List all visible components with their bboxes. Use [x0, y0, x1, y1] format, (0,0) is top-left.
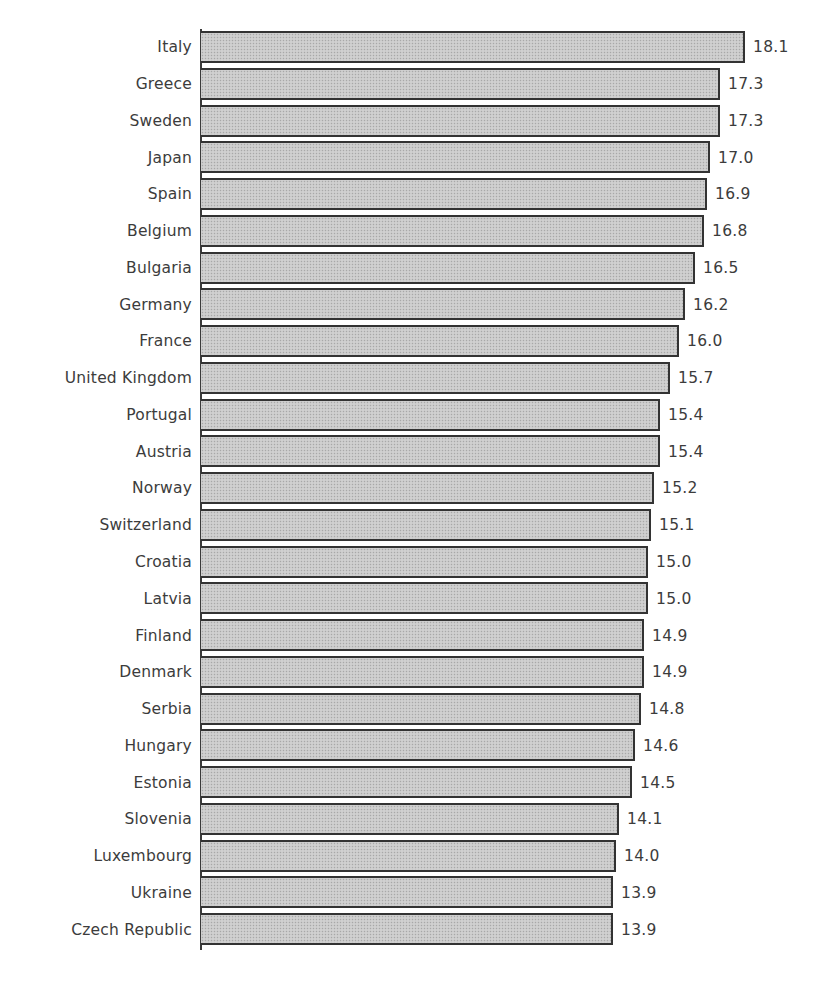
bar-row: Finland14.9 [0, 617, 826, 654]
bar-row: Portugal15.4 [0, 397, 826, 434]
bar-row: Japan17.0 [0, 139, 826, 176]
category-label: Germany [119, 286, 192, 323]
category-label: Switzerland [99, 507, 192, 544]
category-label: Hungary [124, 727, 192, 764]
bar [201, 31, 745, 63]
value-label: 15.4 [668, 433, 704, 470]
value-label: 14.0 [624, 838, 660, 875]
bar [201, 215, 704, 247]
category-label: Italy [157, 29, 192, 66]
category-label: Denmark [119, 654, 192, 691]
value-label: 15.0 [656, 580, 692, 617]
value-label: 14.5 [640, 764, 676, 801]
value-label: 13.9 [621, 874, 657, 911]
category-label: Croatia [135, 544, 192, 581]
bar-row: Serbia14.8 [0, 691, 826, 728]
bar [201, 178, 707, 210]
category-label: Serbia [141, 691, 192, 728]
category-label: Sweden [130, 103, 192, 140]
bar [201, 362, 670, 394]
bar-row: Sweden17.3 [0, 103, 826, 140]
category-label: Austria [136, 433, 192, 470]
category-label: Greece [136, 66, 192, 103]
value-label: 14.9 [652, 617, 688, 654]
bar-row: Croatia15.0 [0, 544, 826, 581]
value-label: 15.4 [668, 397, 704, 434]
bar-row: Italy18.1 [0, 29, 826, 66]
value-label: 15.2 [662, 470, 698, 507]
value-label: 16.0 [687, 323, 723, 360]
value-label: 18.1 [753, 29, 789, 66]
bar [201, 766, 632, 798]
category-label: Bulgaria [126, 250, 192, 287]
value-label: 16.5 [703, 250, 739, 287]
bar-row: Estonia14.5 [0, 764, 826, 801]
category-label: Norway [132, 470, 192, 507]
bar [201, 288, 685, 320]
bar-row: Ukraine13.9 [0, 874, 826, 911]
bar [201, 803, 619, 835]
bar [201, 105, 720, 137]
value-label: 14.8 [649, 691, 685, 728]
category-label: Luxembourg [93, 838, 192, 875]
value-label: 16.9 [715, 176, 751, 213]
value-label: 16.2 [693, 286, 729, 323]
bar [201, 509, 651, 541]
value-label: 15.7 [678, 360, 714, 397]
bar [201, 435, 660, 467]
value-label: 17.3 [728, 103, 764, 140]
bar-row: Norway15.2 [0, 470, 826, 507]
bar [201, 546, 648, 578]
value-label: 15.0 [656, 544, 692, 581]
bar [201, 252, 695, 284]
bar [201, 399, 660, 431]
bar [201, 68, 720, 100]
bar-row: France16.0 [0, 323, 826, 360]
bar [201, 325, 679, 357]
bar [201, 656, 644, 688]
category-label: Czech Republic [71, 911, 192, 948]
bar [201, 693, 641, 725]
category-label: Estonia [134, 764, 192, 801]
bar-row: Bulgaria16.5 [0, 250, 826, 287]
bar-row: Spain16.9 [0, 176, 826, 213]
bar-row: Belgium16.8 [0, 213, 826, 250]
bar [201, 141, 710, 173]
category-label: Slovenia [124, 801, 192, 838]
value-label: 17.3 [728, 66, 764, 103]
value-label: 16.8 [712, 213, 748, 250]
bar [201, 876, 613, 908]
category-label: France [139, 323, 192, 360]
horizontal-bar-chart: Italy18.1Greece17.3Sweden17.3Japan17.0Sp… [0, 0, 826, 982]
bar-row: Luxembourg14.0 [0, 838, 826, 875]
category-label: Belgium [127, 213, 192, 250]
bar-row: Latvia15.0 [0, 580, 826, 617]
bar [201, 840, 616, 872]
category-label: Spain [148, 176, 192, 213]
bar-row: Hungary14.6 [0, 727, 826, 764]
value-label: 13.9 [621, 911, 657, 948]
bar-row: Austria15.4 [0, 433, 826, 470]
bar [201, 472, 654, 504]
bar-row: United Kingdom15.7 [0, 360, 826, 397]
bar-row: Switzerland15.1 [0, 507, 826, 544]
value-label: 14.9 [652, 654, 688, 691]
bar-row: Greece17.3 [0, 66, 826, 103]
bar-row: Denmark14.9 [0, 654, 826, 691]
category-label: Latvia [144, 580, 192, 617]
value-label: 15.1 [659, 507, 695, 544]
category-label: United Kingdom [65, 360, 192, 397]
bar [201, 619, 644, 651]
bar-row: Germany16.2 [0, 286, 826, 323]
bar [201, 913, 613, 945]
value-label: 14.6 [643, 727, 679, 764]
category-label: Finland [135, 617, 192, 654]
category-label: Japan [148, 139, 192, 176]
category-label: Ukraine [131, 874, 192, 911]
bar [201, 582, 648, 614]
value-label: 17.0 [718, 139, 754, 176]
bar [201, 729, 635, 761]
category-label: Portugal [126, 397, 192, 434]
value-label: 14.1 [627, 801, 663, 838]
bar-row: Czech Republic13.9 [0, 911, 826, 948]
